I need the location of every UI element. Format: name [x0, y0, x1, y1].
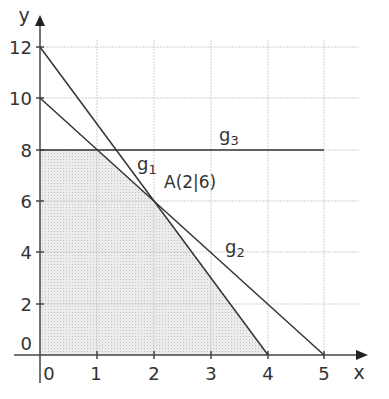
- point-a-label: A(2|6): [164, 172, 216, 192]
- x-tick-label: 1: [90, 363, 101, 384]
- y-tick-label: 12: [9, 37, 32, 58]
- y-tick-label: 2: [21, 294, 32, 315]
- y-tick-label: 10: [9, 88, 32, 109]
- y-tick-label: 0: [21, 333, 32, 354]
- y-tick-label: 4: [21, 242, 32, 263]
- x-tick-label: 4: [262, 363, 273, 384]
- label-g3: g3: [219, 124, 239, 148]
- x-axis-label: x: [353, 361, 364, 383]
- x-tick-label: 0: [43, 363, 54, 384]
- x-tick-label: 5: [318, 363, 329, 384]
- x-tick-label: 2: [148, 363, 159, 384]
- y-axis-label: y: [18, 4, 29, 26]
- x-tick-label: 3: [205, 363, 216, 384]
- label-g1: g1: [137, 153, 157, 177]
- y-tick-label: 8: [21, 140, 32, 161]
- x-axis-arrow-icon: [356, 350, 368, 360]
- label-g2: g2: [225, 236, 245, 260]
- y-tick-label: 6: [21, 191, 32, 212]
- coordinate-diagram: y x 0 1 2 3 4 5 0 2 4 6 8 10 12 g1 g2 g3…: [0, 0, 389, 399]
- y-axis-arrow-icon: [35, 15, 45, 26]
